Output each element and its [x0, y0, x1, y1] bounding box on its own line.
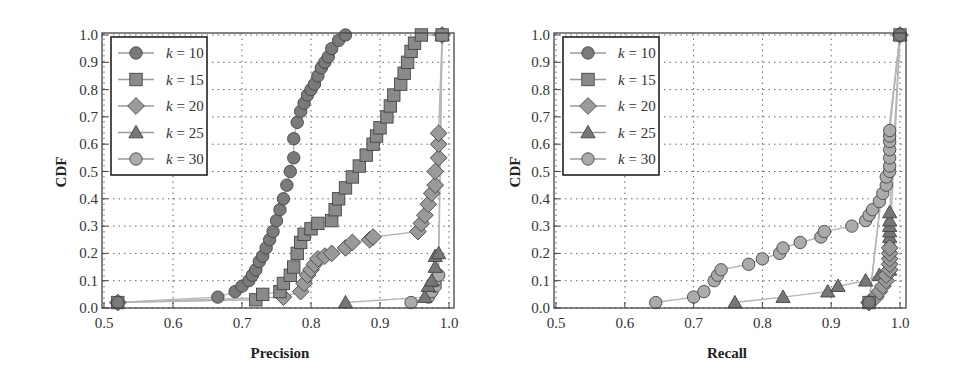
x-axis-label: Precision [251, 345, 311, 361]
y-tick-label: 0.3 [531, 218, 550, 234]
y-tick-label: 1.0 [531, 27, 550, 43]
circle-marker [715, 264, 727, 276]
x-tick-label: 0.7 [233, 315, 252, 331]
legend-label: k = 10 [166, 45, 204, 61]
precision-cdf-plot: 0.50.60.70.80.91.00.00.10.20.30.40.50.60… [53, 27, 458, 361]
y-tick-label: 0.9 [531, 54, 550, 70]
circle-marker [284, 165, 296, 177]
y-tick-label: 1.0 [79, 27, 98, 43]
circle-marker [777, 242, 789, 254]
y-axis-label: CDF [507, 157, 523, 188]
circle-marker [818, 225, 830, 237]
y-tick-label: 0.8 [79, 82, 98, 98]
legend-circle-icon [582, 153, 594, 165]
legend-label: k = 15 [618, 72, 656, 88]
y-tick-label: 0.8 [531, 82, 550, 98]
y-tick-label: 0.5 [531, 164, 550, 180]
circle-marker [212, 291, 224, 303]
x-tick-label: 0.9 [371, 315, 390, 331]
legend-square-icon [582, 73, 594, 85]
x-tick-label: 0.8 [753, 315, 772, 331]
x-tick-label: 0.9 [822, 315, 841, 331]
legend-circle-icon [130, 47, 142, 59]
y-tick-label: 0.7 [531, 109, 550, 125]
circle-marker [756, 253, 768, 265]
square-marker [415, 29, 427, 41]
circle-marker [894, 29, 906, 41]
legend-label: k = 25 [618, 125, 656, 141]
circle-marker [281, 179, 293, 191]
y-tick-label: 0.6 [531, 136, 550, 152]
x-tick-label: 0.8 [302, 315, 321, 331]
y-axis-label: CDF [53, 157, 69, 188]
recall-cdf-plot: 0.50.60.70.80.91.00.00.10.20.30.40.50.60… [507, 27, 909, 361]
x-tick-label: 0.5 [95, 315, 114, 331]
legend: k = 10k = 15k = 20k = 25k = 30 [563, 37, 659, 175]
y-tick-label: 0.1 [79, 273, 98, 289]
circle-marker [339, 29, 351, 41]
legend-label: k = 20 [166, 98, 204, 114]
legend-label: k = 20 [618, 98, 656, 114]
square-marker [257, 288, 269, 300]
circle-marker [698, 285, 710, 297]
square-marker [436, 29, 448, 41]
circle-marker [288, 152, 300, 164]
legend-square-icon [130, 73, 142, 85]
x-tick-label: 1.0 [440, 315, 459, 331]
circle-marker [288, 133, 300, 145]
y-tick-label: 0.2 [531, 245, 550, 261]
legend-circle-icon [582, 47, 594, 59]
x-tick-label: 1.0 [891, 315, 910, 331]
circle-marker [650, 296, 662, 308]
x-tick-label: 0.6 [615, 315, 634, 331]
y-tick-label: 0.4 [531, 191, 550, 207]
y-tick-label: 0.9 [79, 54, 98, 70]
legend-label: k = 30 [166, 151, 204, 167]
square-marker [288, 261, 300, 273]
circle-marker [863, 296, 875, 308]
x-tick-label: 0.6 [164, 315, 183, 331]
circle-marker [794, 236, 806, 248]
y-tick-label: 0.6 [79, 136, 98, 152]
circle-marker [405, 296, 417, 308]
legend-label: k = 15 [166, 72, 204, 88]
x-tick-label: 0.5 [547, 315, 566, 331]
y-tick-label: 0.2 [79, 245, 98, 261]
x-tick-label: 0.7 [684, 315, 703, 331]
y-tick-label: 0.0 [531, 300, 550, 316]
circle-marker [112, 296, 124, 308]
circle-marker [846, 220, 858, 232]
y-tick-label: 0.1 [531, 273, 550, 289]
circle-marker [883, 124, 895, 136]
legend: k = 10k = 15k = 20k = 25k = 30 [111, 37, 207, 175]
y-tick-label: 0.4 [79, 191, 98, 207]
legend-label: k = 10 [618, 45, 656, 61]
legend-label: k = 25 [166, 125, 204, 141]
square-marker [312, 217, 324, 229]
y-tick-label: 0.0 [79, 300, 98, 316]
x-axis-label: Recall [707, 345, 747, 361]
circle-marker [277, 193, 289, 205]
figure: 0.50.60.70.80.91.00.00.10.20.30.40.50.60… [0, 0, 955, 381]
y-tick-label: 0.7 [79, 109, 98, 125]
circle-marker [742, 258, 754, 270]
legend-label: k = 30 [618, 151, 656, 167]
y-tick-label: 0.3 [79, 218, 98, 234]
y-tick-label: 0.5 [79, 164, 98, 180]
legend-circle-icon [130, 153, 142, 165]
